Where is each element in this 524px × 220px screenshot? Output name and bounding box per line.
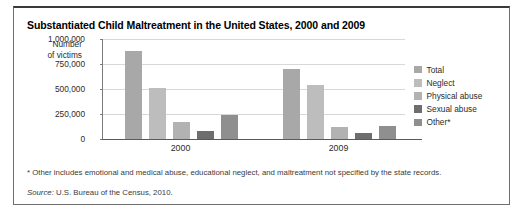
figure-frame: Substantiated Child Maltreatment in the … [13,6,510,205]
legend-label: Total [427,65,445,75]
y-axis-tick-labels: 0250,000500,000750,0001,000,000 [29,39,85,139]
bar-2000-physical-abuse [173,122,190,139]
chart-legend: TotalNeglectPhysical abuseSexual abuseOt… [414,63,509,129]
bar-2009-total [283,69,300,139]
legend-swatch-icon [414,105,422,113]
bar-2000-total [125,51,142,139]
legend-label: Other* [427,117,451,127]
legend-item-other: Other* [414,116,509,129]
bar-2009-neglect [307,85,324,139]
source-value: U.S. Bureau of the Census, 2010. [54,188,173,197]
bar-2000-sexual-abuse [197,131,214,140]
gridline [103,39,405,40]
bar-2009-other [379,126,396,140]
plot-area: 0250,000500,000750,0001,000,000 20002009 [89,39,404,157]
legend-item-neglect: Neglect [414,76,509,89]
x-axis-group-label-2009: 2009 [329,143,349,153]
source-label: Source: [27,188,54,197]
y-axis-tick-label: 1,000,000 [29,34,85,44]
y-axis-tick-label: 750,000 [29,59,85,69]
bar-2000-neglect [149,88,166,139]
footnote-text: * Other includes emotional and medical a… [27,168,441,177]
y-axis-tickmark [100,89,103,90]
y-axis-tickmark [100,64,103,65]
y-axis-tick-label: 500,000 [29,84,85,94]
plot-canvas [102,39,405,139]
y-axis-tick-label: 250,000 [29,109,85,119]
legend-label: Sexual abuse [427,104,477,114]
source-text: Source: U.S. Bureau of the Census, 2010. [27,188,173,197]
x-axis-group-label-2000: 2000 [171,143,191,153]
legend-swatch-icon [414,92,422,100]
y-axis-tick-label: 0 [29,134,85,144]
y-axis-tickmark [100,39,103,40]
bar-2000-other [221,115,238,139]
gridline [103,64,405,65]
y-axis-tickmark [100,114,103,115]
legend-label: Physical abuse [427,91,483,101]
legend-swatch-icon [414,66,422,74]
legend-item-sexual-abuse: Sexual abuse [414,103,509,116]
bar-2009-physical-abuse [331,127,348,139]
legend-swatch-icon [414,119,422,127]
chart-title: Substantiated Child Maltreatment in the … [27,19,365,31]
legend-label: Neglect [427,78,455,88]
x-axis-baseline [102,139,422,140]
legend-item-physical-abuse: Physical abuse [414,89,509,102]
legend-swatch-icon [414,79,422,87]
legend-item-total: Total [414,63,509,76]
